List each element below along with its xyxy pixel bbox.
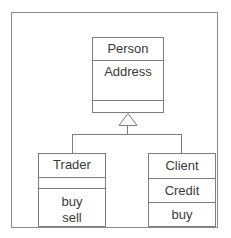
class-attribute-person-address: Address <box>104 64 152 80</box>
diagram-frame: Person Address Trader buy sell <box>11 12 218 228</box>
generalization-arrowhead-icon <box>118 113 138 126</box>
generalization-horizontal-line <box>72 134 182 135</box>
class-attributes-compartment-person: Address <box>93 60 163 100</box>
class-box-trader[interactable]: Trader buy sell <box>38 153 106 227</box>
class-name-trader: Trader <box>53 157 91 173</box>
class-operation-trader-buy: buy <box>62 194 83 210</box>
class-box-client[interactable]: Client Credit buy <box>148 153 216 227</box>
generalization-branch-to-client <box>181 134 182 153</box>
class-name-client: Client <box>165 158 198 174</box>
class-operations-compartment-person <box>93 100 163 112</box>
class-name-compartment-client: Client <box>149 154 215 178</box>
class-box-person[interactable]: Person Address <box>92 37 164 113</box>
uml-class-diagram-canvas: Person Address Trader buy sell <box>0 0 231 238</box>
class-name-person: Person <box>107 41 148 57</box>
class-attribute-client-credit: Credit <box>165 183 200 199</box>
class-operations-compartment-client: buy <box>149 202 215 226</box>
class-name-compartment-person: Person <box>93 38 163 60</box>
class-name-compartment-trader: Trader <box>39 154 105 177</box>
class-attributes-compartment-trader <box>39 177 105 189</box>
generalization-branch-to-trader <box>72 134 73 153</box>
class-operations-compartment-trader: buy sell <box>39 188 105 226</box>
class-operation-trader-sell: sell <box>62 210 82 226</box>
class-attributes-compartment-client: Credit <box>149 178 215 202</box>
class-operation-client-buy: buy <box>172 207 193 223</box>
